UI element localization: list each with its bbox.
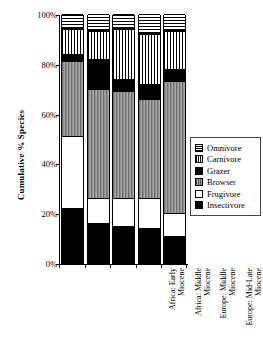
grazer-swatch-icon: [195, 167, 203, 175]
x-tick-mark: [136, 264, 137, 268]
x-axis-label: Africa: EarlyMiocene: [168, 268, 186, 355]
x-axis-label-line: Miocene: [203, 268, 212, 355]
segment-carnivore: [139, 34, 160, 84]
x-tick-mark: [85, 264, 86, 268]
x-axis-label-line: Africa: Early: [168, 268, 177, 355]
x-axis-label: Europe: Mid-LateMiocene: [245, 268, 263, 355]
legend-item-browser[interactable]: Browser: [195, 177, 257, 189]
x-tick-mark: [59, 264, 60, 268]
legend-item-insectivore[interactable]: Insectivore: [195, 200, 257, 212]
segment-browser: [164, 81, 185, 213]
segment-carnivore: [164, 31, 185, 68]
bar-4: [138, 15, 161, 264]
carnivore-swatch-icon: [195, 155, 203, 163]
chart-legend: OmnivoreCarnivoreGrazerBrowserFrugivoreI…: [190, 137, 261, 216]
y-tick-mark: [56, 65, 60, 66]
legend-item-frugivore[interactable]: Frugivore: [195, 188, 257, 200]
x-tick-mark: [110, 264, 111, 268]
x-axis-label-line: Miocene: [228, 268, 237, 355]
y-axis-title: Cumulative % Species: [16, 90, 26, 220]
x-tick-mark: [161, 264, 162, 268]
browser-swatch-icon: [195, 178, 203, 186]
segment-carnivore: [88, 31, 109, 58]
bar-2: [87, 15, 110, 264]
legend-item-carnivore[interactable]: Carnivore: [195, 154, 257, 166]
segment-grazer: [164, 69, 185, 81]
y-tick-mark: [56, 214, 60, 215]
x-axis-label-line: Europe: Mid-Late: [245, 268, 254, 355]
segment-frugivore: [113, 198, 134, 225]
bar-5: [163, 15, 186, 264]
y-tick-label: 40%: [41, 160, 57, 169]
x-axis-label-line: Miocene: [177, 268, 186, 355]
y-tick-label: 60%: [41, 110, 57, 119]
segment-insectivore: [139, 228, 160, 263]
frugivore-swatch-icon: [195, 190, 203, 198]
segment-frugivore: [62, 136, 83, 208]
y-axis-line: [59, 15, 60, 265]
segment-carnivore: [113, 29, 134, 79]
segment-insectivore: [113, 226, 134, 263]
segment-grazer: [62, 54, 83, 61]
segment-grazer: [88, 59, 109, 89]
x-axis-label-line: Europe: Middle: [219, 268, 228, 355]
segment-browser: [62, 61, 83, 136]
segment-grazer: [139, 84, 160, 99]
x-axis-label: Europe: MiddleMiocene: [219, 268, 237, 355]
bar-3: [112, 15, 135, 264]
omnivore-swatch-icon: [195, 144, 203, 152]
segment-browser: [113, 91, 134, 198]
legend-item-label: Carnivore: [207, 155, 241, 164]
segment-frugivore: [88, 198, 109, 223]
segment-insectivore: [62, 208, 83, 263]
segment-omnivore: [164, 14, 185, 31]
y-tick-label: 80%: [41, 61, 57, 70]
legend-item-label: Browser: [207, 178, 236, 187]
legend-item-grazer[interactable]: Grazer: [195, 165, 257, 177]
segment-insectivore: [164, 236, 185, 263]
legend-item-label: Grazer: [207, 167, 230, 176]
x-axis-label-line: Miocene: [254, 268, 263, 355]
segment-omnivore: [62, 14, 83, 29]
bar-1: [61, 15, 84, 264]
segment-omnivore: [88, 14, 109, 31]
segment-frugivore: [139, 198, 160, 228]
x-axis-label-line: Africa: Middle: [194, 268, 203, 355]
y-tick-label: 20%: [41, 210, 57, 219]
segment-browser: [139, 99, 160, 199]
segment-insectivore: [88, 223, 109, 263]
segment-browser: [88, 89, 109, 199]
legend-item-label: Frugivore: [207, 190, 241, 199]
legend-item-label: Insectivore: [207, 201, 245, 210]
x-axis-line: [59, 264, 188, 265]
insectivore-swatch-icon: [195, 201, 203, 209]
legend-item-omnivore[interactable]: Omnivore: [195, 142, 257, 154]
x-tick-mark: [186, 264, 187, 268]
segment-frugivore: [164, 213, 185, 235]
legend-item-label: Omnivore: [207, 144, 241, 153]
y-tick-mark: [56, 164, 60, 165]
y-tick-mark: [56, 115, 60, 116]
segment-carnivore: [62, 29, 83, 54]
x-axis-label: Africa: MiddleMiocene: [194, 268, 212, 355]
segment-grazer: [113, 79, 134, 91]
y-tick-label: 100%: [37, 11, 57, 20]
y-tick-mark: [56, 15, 60, 16]
segment-omnivore: [139, 14, 160, 34]
stacked-bar-chart: Cumulative % Species 0%20%40%60%80%100% …: [0, 0, 263, 355]
plot-area: 0%20%40%60%80%100% Africa: EarlyMioceneA…: [60, 15, 187, 264]
segment-omnivore: [113, 14, 134, 29]
